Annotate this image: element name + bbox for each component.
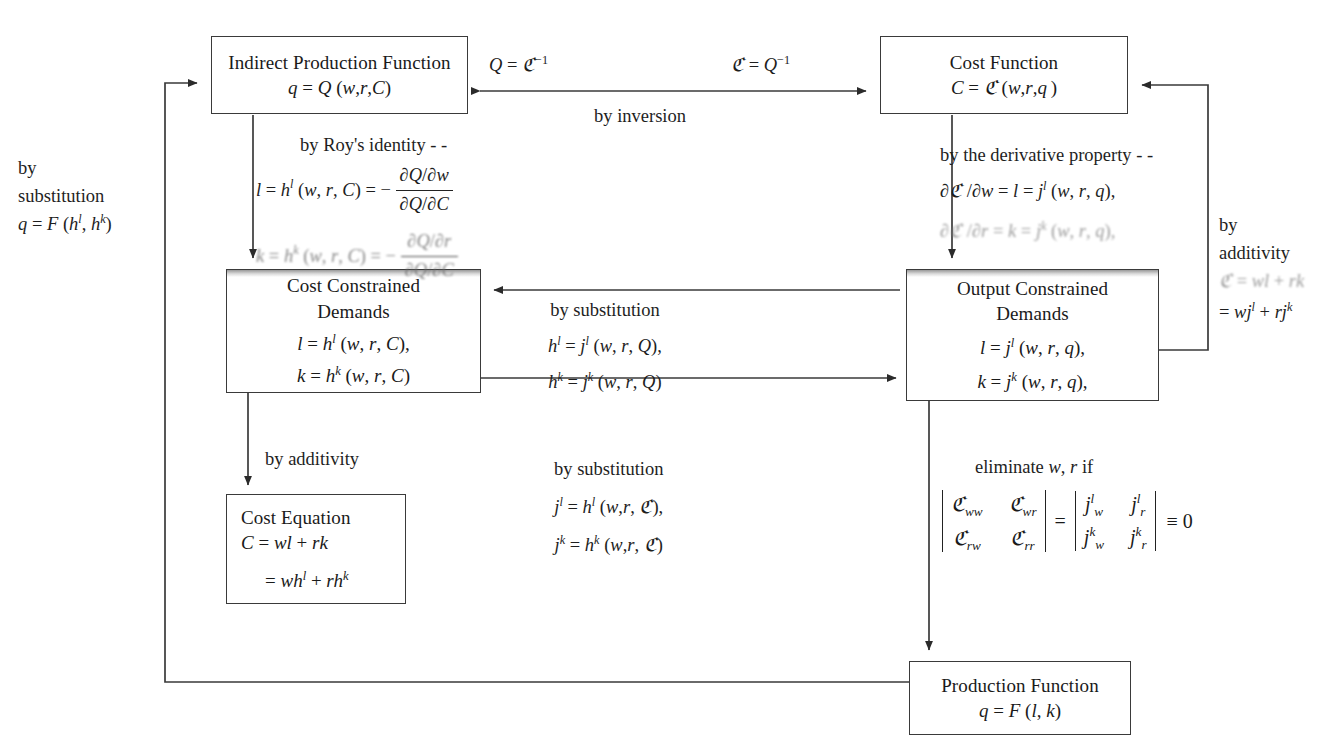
label-derivative-property-equation-1: ∂ℭ /∂w = l = jl (w, r, q), xyxy=(940,178,1115,206)
determinant-left-matrix: ℭww ℭwr ℭrw ℭrr xyxy=(942,490,1046,552)
left-substitution-line-2: substitution xyxy=(18,183,112,211)
det-cell-jkr: jkr xyxy=(1130,526,1147,549)
det-cell-jkw: jkw xyxy=(1084,526,1104,549)
label-inversion-right: ℭ = Q−1 xyxy=(731,52,790,80)
output-constrained-demands-equation-1: l = jl (w, r, q), xyxy=(980,335,1085,360)
indirect-production-function-equation: q = Q (w,r,C) xyxy=(288,75,391,100)
label-derivative-property: by the derivative property - - xyxy=(940,142,1153,170)
indirect-production-function-title: Indirect Production Function xyxy=(228,50,450,75)
box-top-shade xyxy=(907,270,1158,277)
label-lower-substitution: by substitution jl = hl (w,r, ℭ), jk = h… xyxy=(554,456,663,559)
lower-substitution-equation-2: jk = hk (w,r, ℭ) xyxy=(554,532,663,560)
label-inversion-left: Q = ℭ−1 xyxy=(489,52,548,80)
box-cost-constrained-demands[interactable]: Cost Constrained Demands l = hl (w, r, C… xyxy=(226,269,481,393)
box-production-function[interactable]: Production Function q = F (l, k) xyxy=(909,661,1131,735)
left-substitution-line-3: q = F (hl, hk) xyxy=(18,211,112,239)
cost-constrained-demands-equation-2: k = hk (w, r, C) xyxy=(297,363,410,388)
output-constrained-demands-title-line2: Demands xyxy=(996,301,1068,326)
box-indirect-production-function[interactable]: Indirect Production Function q = Q (w,r,… xyxy=(211,36,468,114)
label-by-additivity: by additivity xyxy=(265,446,359,474)
mid-substitution-equation-2: hk = jk (w, r, Q) xyxy=(548,369,662,397)
cost-function-equation: C = ℭ (w,r,q ) xyxy=(951,75,1057,100)
right-additivity-line-1: by xyxy=(1219,212,1304,240)
cost-equation-equation-2: = whl + rhk xyxy=(265,568,348,593)
determinant-identity: ℭww ℭwr ℭrw ℭrr = jlw jlr jkw jkr ≡ 0 xyxy=(940,490,1193,552)
output-constrained-demands-equation-2: k = jk (w, r, q), xyxy=(977,369,1087,394)
mid-substitution-title: by substitution xyxy=(548,297,662,325)
label-roys-identity: by Roy's identity - - xyxy=(300,132,447,160)
det-cell-jlw: jlw xyxy=(1084,493,1104,516)
det-cell-jlr: jlr xyxy=(1130,493,1147,516)
det-cell-Crw: ℭrw xyxy=(951,526,983,550)
label-eliminate-title: eliminate w, r if xyxy=(975,454,1093,482)
cost-function-title: Cost Function xyxy=(950,50,1058,75)
label-inversion-caption: by inversion xyxy=(594,103,686,131)
determinant-result: ≡ 0 xyxy=(1167,510,1193,533)
lower-substitution-equation-1: jl = hl (w,r, ℭ), xyxy=(554,494,663,522)
determinant-equals-sign: = xyxy=(1055,510,1066,533)
box-cost-function[interactable]: Cost Function C = ℭ (w,r,q ) xyxy=(880,36,1128,114)
label-mid-substitution: by substitution hl = jl (w, r, Q), hk = … xyxy=(548,297,662,396)
right-additivity-line-2: additivity xyxy=(1219,240,1304,268)
label-right-additivity: by additivity ℭ = wl + rk = wjl + rjk xyxy=(1219,212,1304,327)
det-cell-Cww: ℭww xyxy=(951,492,983,516)
label-left-substitution: by substitution q = F (hl, hk) xyxy=(18,155,112,238)
production-function-equation: q = F (l, k) xyxy=(979,698,1061,723)
label-roys-identity-equation-1: l = hl (w, r, C) = − ∂Q/∂w ∂Q/∂C xyxy=(256,163,453,220)
determinant-right-matrix: jlw jlr jkw jkr xyxy=(1075,491,1156,551)
mid-substitution-equation-1: hl = jl (w, r, Q), xyxy=(548,333,662,361)
right-additivity-line-3: ℭ = wl + rk xyxy=(1219,268,1304,296)
box-cost-equation[interactable]: Cost Equation C = wl + rk = whl + rhk xyxy=(226,494,406,604)
right-additivity-line-4: = wjl + rjk xyxy=(1219,299,1304,327)
cost-equation-title: Cost Equation xyxy=(241,505,351,530)
det-cell-Crr: ℭrr xyxy=(1009,526,1037,550)
output-constrained-demands-title-line1: Output Constrained xyxy=(957,276,1108,301)
cost-constrained-demands-equation-1: l = hl (w, r, C), xyxy=(297,331,409,356)
label-roys-identity-equation-2: k = hk (w, r, C) = − ∂Q/∂r ∂Q/∂C xyxy=(256,229,458,286)
det-cell-Cwr: ℭwr xyxy=(1009,492,1037,516)
lower-substitution-title: by substitution xyxy=(554,456,663,484)
label-derivative-property-equation-2: ∂ℭ /∂r = k = jk (w, r, q), xyxy=(940,218,1115,246)
production-function-title: Production Function xyxy=(941,673,1099,698)
box-output-constrained-demands[interactable]: Output Constrained Demands l = jl (w, r,… xyxy=(906,269,1159,401)
fraction-dQdw-over-dQdC: ∂Q/∂w ∂Q/∂C xyxy=(396,162,453,219)
fraction-dQdr-over-dQdC: ∂Q/∂r ∂Q/∂C xyxy=(401,228,458,285)
cost-equation-equation-1: C = wl + rk xyxy=(241,530,328,555)
diagram-canvas: cost function (by inversion) --> Indirec… xyxy=(0,0,1338,752)
left-substitution-line-1: by xyxy=(18,155,112,183)
cost-constrained-demands-title-line2: Demands xyxy=(317,299,389,324)
